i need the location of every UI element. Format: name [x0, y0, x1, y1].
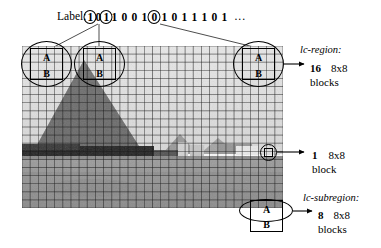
figure-root: Label: 101100101011101 ...	[0, 0, 381, 248]
lc-region-size: 8x8	[331, 62, 348, 74]
lc-subregion-unit: blocks	[318, 223, 350, 235]
annotation-lc-subregion-value: 8 8x8 blocks	[318, 205, 350, 235]
lc-subregion-count: 8	[318, 209, 324, 221]
single-block-size: 8x8	[329, 149, 346, 161]
lc-subregion-size: 8x8	[334, 209, 351, 221]
single-block-count: 1	[312, 149, 318, 161]
annotation-lc-region: lc-region:	[300, 44, 342, 55]
lc-region-count: 16	[310, 62, 321, 74]
annotation-lc-subregion: lc-subregion:	[303, 192, 359, 203]
lc-subregion-title: lc-subregion:	[303, 192, 359, 203]
lc-region-unit: blocks	[310, 76, 348, 88]
annotation-lc-region-value: 16 8x8 blocks	[310, 58, 348, 88]
annotation-single-block: 1 8x8 block	[312, 145, 345, 175]
single-block-unit: block	[312, 163, 345, 175]
lc-region-title: lc-region:	[300, 44, 342, 55]
